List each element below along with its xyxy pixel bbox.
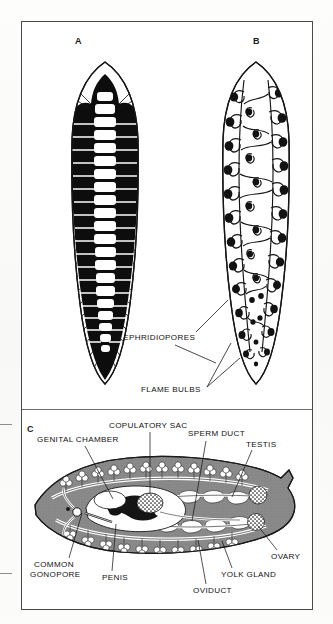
label-oviduct: OVIDUCT — [193, 586, 232, 596]
panel-letter-c: C — [27, 424, 34, 434]
panel-letter-a: A — [75, 36, 82, 46]
label-copulatory-sac: COPULATORY SAC — [109, 421, 188, 431]
panel-letter-b: B — [253, 36, 260, 46]
label-testis: TESTIS — [246, 440, 276, 450]
label-sperm-duct: SPERM DUCT — [188, 429, 245, 439]
page-edge-tick-top — [0, 424, 12, 425]
page-edge-tick-bottom — [0, 573, 12, 574]
panel-divider — [22, 409, 312, 410]
label-genital-chamber: GENITAL CHAMBER — [37, 435, 119, 445]
label-nephridiopores: NEPHRIDIOPORES — [117, 333, 195, 343]
label-common-gonopore-line2: GONOPORE — [30, 570, 80, 580]
plate-frame — [21, 21, 313, 610]
label-ovary: OVARY — [271, 552, 300, 562]
label-common-gonopore-line1: COMMON — [34, 560, 74, 570]
label-flame-bulbs: FLAME BULBS — [141, 385, 201, 395]
label-yolk-gland: YOLK GLAND — [221, 570, 276, 580]
label-penis: PENIS — [102, 573, 128, 583]
figure-page: A B C NEPHRIDIOPORES FLAME BULBS COPULAT… — [0, 0, 333, 624]
